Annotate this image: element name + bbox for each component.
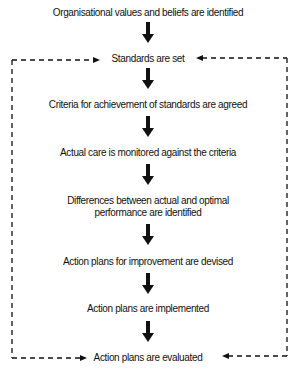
arrow-right-icon <box>93 57 100 63</box>
feedback-loop-dashed <box>12 58 287 358</box>
down-arrow-icon <box>142 273 154 294</box>
down-arrow-icon <box>142 164 154 185</box>
down-arrow-icon <box>142 116 154 137</box>
flow-arrows-layer <box>0 0 302 374</box>
down-arrow-icon <box>142 22 154 43</box>
down-arrow-icon <box>142 68 154 89</box>
down-arrow-icon <box>142 321 154 342</box>
arrow-left-icon <box>196 55 203 61</box>
arrow-left-icon <box>222 353 229 359</box>
arrow-right-icon <box>80 355 87 361</box>
down-arrow-icon <box>142 224 154 245</box>
